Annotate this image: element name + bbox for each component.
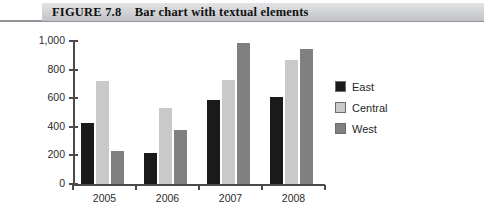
bar-west-2008[interactable]	[300, 49, 313, 184]
legend-label: East	[352, 81, 374, 93]
bar-east-2007[interactable]	[207, 100, 220, 184]
x-tick-label-2007: 2007	[201, 192, 261, 204]
x-tick-mark	[198, 185, 200, 190]
bar-group-2008	[270, 24, 313, 184]
bar-west-2007[interactable]	[237, 43, 250, 184]
chart-legend: EastCentralWest	[335, 78, 455, 141]
bar-east-2008[interactable]	[270, 97, 283, 184]
legend-item-east[interactable]: East	[335, 78, 455, 95]
legend-swatch-icon-west	[335, 123, 346, 134]
bar-group-2007	[207, 24, 250, 184]
bar-group-2005	[81, 24, 124, 184]
bar-central-2007[interactable]	[222, 80, 235, 184]
x-tick-label-2006: 2006	[138, 192, 198, 204]
x-tick-mark	[72, 185, 74, 190]
x-tick-mark	[261, 185, 263, 190]
x-tick-label-2008: 2008	[264, 192, 324, 204]
figure-caption-text: FIGURE 7.8 Bar chart with textual elemen…	[52, 4, 309, 21]
bar-central-2005[interactable]	[96, 81, 109, 184]
bar-chart: 02004006008001,000 2005200620072008 East…	[0, 24, 484, 223]
figure-caption-band: FIGURE 7.8 Bar chart with textual elemen…	[0, 3, 484, 24]
bar-west-2006[interactable]	[174, 130, 187, 184]
legend-label: West	[352, 123, 377, 135]
bar-east-2006[interactable]	[144, 153, 157, 184]
bar-west-2005[interactable]	[111, 151, 124, 184]
bar-group-2006	[144, 24, 187, 184]
legend-item-west[interactable]: West	[335, 120, 455, 137]
x-tick-mark	[324, 185, 326, 190]
bar-east-2005[interactable]	[81, 123, 94, 184]
legend-swatch-icon-central	[335, 102, 346, 113]
x-tick-mark	[135, 185, 137, 190]
x-tick-label-2005: 2005	[75, 192, 135, 204]
legend-item-central[interactable]: Central	[335, 99, 455, 116]
bar-central-2006[interactable]	[159, 108, 172, 184]
bar-central-2008[interactable]	[285, 60, 298, 184]
legend-swatch-icon-east	[335, 81, 346, 92]
legend-label: Central	[352, 102, 387, 114]
